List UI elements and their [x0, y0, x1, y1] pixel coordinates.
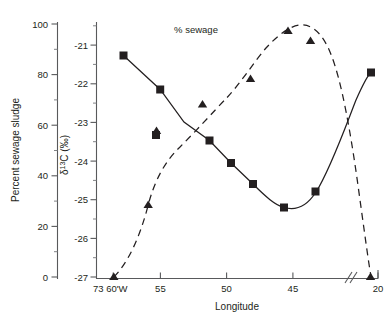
delta-tick-label: -25 — [74, 194, 88, 205]
delta-axis-ticks — [91, 26, 97, 277]
left-tick-label: 60 — [37, 120, 48, 131]
chart-figure: 0 20 40 60 80 100 Percent sewage sludge — [0, 0, 389, 323]
x-tick-label: 45 — [288, 283, 299, 294]
triangle-marker — [152, 127, 161, 135]
x-axis — [97, 270, 379, 283]
delta-13c-curve — [114, 25, 371, 277]
triangle-marker — [283, 27, 292, 35]
triangle-marker — [198, 100, 207, 108]
x-axis-title: Longitude — [215, 301, 259, 312]
square-marker — [280, 204, 288, 212]
square-marker — [227, 159, 235, 167]
square-marker — [367, 69, 375, 77]
left-axis-tick-labels: 0 20 40 60 80 100 — [32, 19, 48, 283]
percent-sludge-curve — [124, 56, 372, 209]
delta-tick-label: -21 — [74, 40, 88, 51]
square-marker — [312, 188, 320, 196]
delta-axis-tick-labels: -27 -26 -25 -24 -23 -22 -21 — [74, 40, 88, 283]
svg-text:δ13C (‰): δ13C (‰) — [59, 135, 71, 175]
x-tick-label: 55 — [155, 283, 166, 294]
x-tick-label: 50 — [221, 283, 232, 294]
x-tick-label: 73 60'W — [93, 283, 128, 294]
triangle-marker — [306, 37, 315, 45]
left-axis-ticks — [52, 24, 58, 277]
square-marker — [156, 86, 164, 94]
delta-axis-title: δ13C (‰) — [59, 135, 71, 175]
left-tick-label: 20 — [37, 221, 48, 232]
sewage-annotation: % sewage — [174, 24, 218, 35]
triangle-marker — [144, 201, 153, 209]
delta-tick-label: -23 — [74, 117, 88, 128]
triangle-marker — [366, 273, 375, 281]
x-axis-ticks — [113, 273, 378, 279]
triangle-marker — [246, 75, 255, 83]
delta-tick-label: -24 — [74, 156, 88, 167]
left-tick-label: 40 — [37, 170, 48, 181]
left-tick-label: 0 — [43, 272, 48, 283]
square-marker — [120, 52, 128, 60]
square-marker — [249, 180, 257, 188]
left-tick-label: 80 — [37, 69, 48, 80]
chart-plot: 0 20 40 60 80 100 Percent sewage sludge — [0, 0, 389, 323]
x-tick-label: 20 — [373, 283, 384, 294]
delta-tick-label: -22 — [74, 78, 88, 89]
x-axis-tick-labels: 73 60'W 55 50 45 20 — [93, 283, 383, 294]
square-marker — [206, 137, 214, 145]
delta-superscript: 13 — [59, 162, 66, 170]
left-tick-label: 100 — [32, 19, 48, 30]
delta-tick-label: -26 — [74, 233, 88, 244]
delta-tick-label: -27 — [74, 272, 88, 283]
left-axis-title: Percent sewage sludge — [10, 98, 21, 202]
delta-rest: C (‰) — [59, 135, 70, 162]
